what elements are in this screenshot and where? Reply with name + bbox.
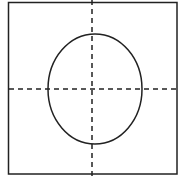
ellipse-diagram xyxy=(0,0,181,176)
